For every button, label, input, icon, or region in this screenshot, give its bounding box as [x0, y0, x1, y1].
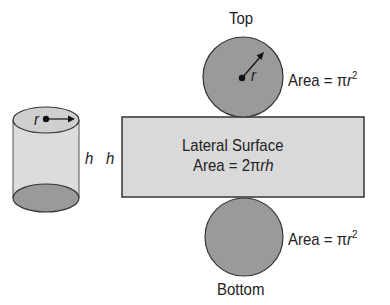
cylinder-3d	[13, 107, 79, 212]
bottom-circle	[205, 198, 283, 276]
lateral-area-prefix: Area = 2π	[193, 156, 260, 175]
cylinder-radius-label: r	[34, 111, 39, 128]
cylinder-bottom-face	[13, 184, 79, 212]
top-radius-label: r	[251, 67, 256, 84]
bottom-area-prefix: Area = π	[288, 230, 347, 249]
net-height-label: h	[106, 150, 114, 167]
top-area-formula: Area = πr2	[288, 70, 357, 89]
lateral-area-var: rh	[260, 156, 273, 175]
top-area-prefix: Area = π	[288, 71, 347, 90]
bottom-area-formula: Area = πr2	[288, 229, 357, 248]
bottom-area-exp: 2	[352, 228, 357, 240]
lateral-surface-label: Lateral Surface	[182, 137, 283, 154]
top-circle	[203, 37, 283, 117]
top-label: Top	[229, 10, 253, 27]
top-area-exp: 2	[352, 69, 357, 81]
lateral-area-formula: Area = 2πrh	[193, 157, 274, 174]
bottom-label: Bottom	[217, 281, 264, 298]
cylinder-height-label: h	[85, 150, 93, 167]
